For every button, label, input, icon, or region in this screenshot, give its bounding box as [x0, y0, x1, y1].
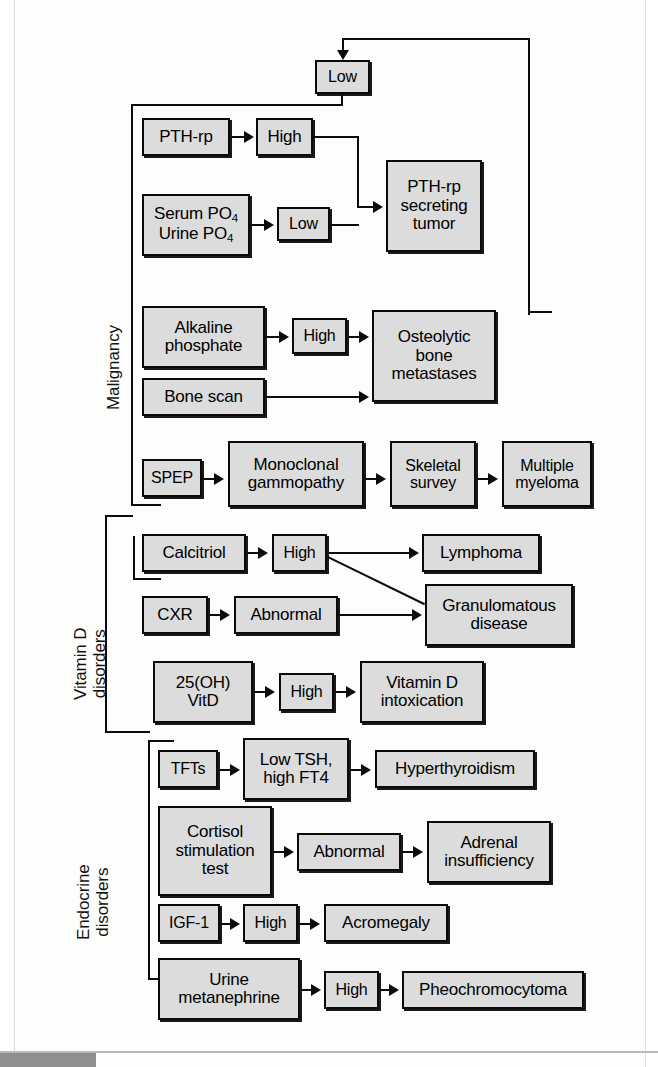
- edge-calchigh-to-granulomatous: [327, 556, 425, 605]
- node-label: Acromegaly: [342, 914, 430, 932]
- node-metanephrine-high[interactable]: High: [324, 971, 379, 1009]
- node-label-line1: Monoclonal: [254, 456, 339, 474]
- node-25oh-vitd[interactable]: 25(OH) VitD: [153, 661, 253, 723]
- scan-bottom-tab: [0, 1053, 96, 1067]
- node-label: High: [290, 683, 322, 700]
- return-loop-stub: [528, 311, 552, 313]
- edge-po4-to-low: [251, 224, 265, 226]
- arrow-into-pheochromocytoma: [389, 984, 399, 996]
- node-low-tsh-high-ft4[interactable]: Low TSH, high FT4: [243, 738, 349, 800]
- scan-edge-left: [0, 0, 15, 1067]
- node-label: Abnormal: [250, 606, 321, 624]
- node-lymphoma[interactable]: Lymphoma: [422, 534, 540, 572]
- node-bone-scan[interactable]: Bone scan: [142, 378, 265, 416]
- node-skeletal-survey[interactable]: Skeletal survey: [390, 441, 476, 507]
- node-label-line1: Vitamin D: [386, 674, 458, 692]
- return-loop-vertical: [528, 40, 530, 315]
- node-label-line1: Urine: [209, 971, 249, 989]
- junction-vertical-tumor: [357, 136, 359, 208]
- arrow-alk-to-high: [279, 331, 289, 343]
- node-label-line2: insufficiency: [444, 852, 534, 870]
- arrow-into-vitd-intoxication: [346, 686, 356, 698]
- node-pth-rp-secreting-tumor[interactable]: PTH-rp secreting tumor: [386, 160, 482, 252]
- section-label-malignancy: Malignancy: [104, 325, 123, 410]
- node-cortisol-abnormal[interactable]: Abnormal: [297, 833, 401, 871]
- node-label: High: [283, 544, 315, 561]
- node-label-line1: Adrenal: [460, 834, 517, 852]
- node-cortisol-stimulation-test[interactable]: Cortisol stimulation test: [158, 806, 272, 896]
- node-label: PTH-rp: [159, 128, 213, 146]
- node-label-line2: disease: [470, 615, 527, 633]
- node-serum-urine-po4[interactable]: Serum PO4 Urine PO4: [142, 194, 250, 256]
- arrow-skeletal-to-myeloma: [488, 473, 498, 485]
- node-label: Abnormal: [313, 843, 384, 861]
- node-pheochromocytoma[interactable]: Pheochromocytoma: [402, 971, 584, 1009]
- node-spep[interactable]: SPEP: [142, 459, 202, 497]
- arrow-tfts-to-lowtsh: [230, 764, 240, 776]
- node-label-line2: survey: [410, 474, 456, 491]
- node-label: Lymphoma: [440, 544, 522, 562]
- node-alk-high[interactable]: High: [292, 318, 347, 354]
- node-hyperthyroidism[interactable]: Hyperthyroidism: [375, 750, 535, 788]
- node-label: Hyperthyroidism: [395, 760, 515, 778]
- node-label-line3: tumor: [413, 215, 455, 233]
- node-cxr-abnormal[interactable]: Abnormal: [234, 596, 338, 634]
- node-label-line2: stimulation: [175, 842, 254, 860]
- node-label-line1: Multiple: [520, 457, 574, 474]
- node-label: CXR: [157, 606, 192, 624]
- node-po4-low[interactable]: Low: [277, 207, 330, 241]
- node-calcitriol[interactable]: Calcitriol: [142, 534, 246, 572]
- node-granulomatous-disease[interactable]: Granulomatous disease: [425, 584, 573, 646]
- node-label-line2: gammopathy: [248, 474, 344, 492]
- node-adrenal-insufficiency[interactable]: Adrenal insufficiency: [427, 821, 551, 883]
- bracket-calcitriol-stub-vertical: [133, 536, 135, 580]
- edge-pthrp-to-high: [231, 136, 245, 138]
- node-cxr[interactable]: CXR: [142, 596, 208, 634]
- node-label-line1: Cortisol: [187, 823, 243, 841]
- node-acromegaly[interactable]: Acromegaly: [324, 904, 448, 942]
- node-label-line2: phosphate: [165, 337, 243, 355]
- node-label-line1: PTH-rp: [407, 178, 461, 196]
- arrow-vitd-to-high: [265, 686, 275, 698]
- arrow-cxr-to-abnormal: [220, 609, 230, 621]
- node-label-line2: high FT4: [263, 769, 329, 787]
- arrow-into-pth-rp-tumor: [373, 201, 383, 213]
- arrow-into-lymphoma: [409, 547, 419, 559]
- low-to-bracket-horizontal: [131, 104, 343, 106]
- node-label-line2: VitD: [187, 692, 218, 710]
- node-label-line2: bone: [415, 347, 452, 365]
- bracket-malignancy-foot: [131, 504, 161, 506]
- section-label-vitamin-d: Vitamin D disorders: [72, 628, 109, 700]
- node-urine-metanephrine[interactable]: Urine metanephrine: [158, 958, 300, 1020]
- scan-bottom-rule: [0, 1051, 658, 1053]
- node-label-line1: Osteolytic: [398, 328, 471, 346]
- node-label-line1: Low TSH,: [260, 751, 333, 769]
- node-label-line2: Urine PO4: [159, 225, 234, 245]
- node-monoclonal-gammopathy[interactable]: Monoclonal gammopathy: [228, 441, 364, 507]
- node-multiple-myeloma[interactable]: Multiple myeloma: [502, 441, 592, 507]
- bracket-malignancy: [131, 104, 133, 506]
- scan-edge-right: [645, 0, 658, 1067]
- edge-alk-to-high: [266, 336, 280, 338]
- node-top-low[interactable]: Low: [315, 60, 370, 94]
- bracket-vitamin-d-head: [105, 515, 133, 517]
- node-label-line2: intoxication: [381, 692, 464, 710]
- node-calcitriol-high[interactable]: High: [272, 534, 327, 572]
- node-tfts[interactable]: TFTs: [158, 750, 218, 788]
- arrow-cortisol-to-abnormal: [284, 846, 294, 858]
- node-vit-d-high[interactable]: High: [279, 673, 334, 711]
- node-igf1-high[interactable]: High: [243, 904, 298, 942]
- arrow-into-adrenal: [413, 846, 423, 858]
- node-vitamin-d-intoxication[interactable]: Vitamin D intoxication: [360, 661, 484, 723]
- node-label-line3: test: [202, 860, 229, 878]
- node-alkaline-phosphate[interactable]: Alkaline phosphate: [142, 306, 265, 368]
- node-pth-rp-high[interactable]: High: [256, 118, 313, 156]
- node-osteolytic-bone-metastases[interactable]: Osteolytic bone metastases: [372, 310, 496, 402]
- node-label: IGF-1: [169, 914, 209, 931]
- arrow-into-acromegaly: [310, 918, 320, 930]
- node-pth-rp[interactable]: PTH-rp: [142, 118, 230, 156]
- arrow-into-granulomatous: [412, 609, 422, 621]
- node-label: High: [254, 914, 286, 931]
- node-label-line1: Granulomatous: [442, 597, 556, 615]
- node-igf1[interactable]: IGF-1: [158, 904, 220, 942]
